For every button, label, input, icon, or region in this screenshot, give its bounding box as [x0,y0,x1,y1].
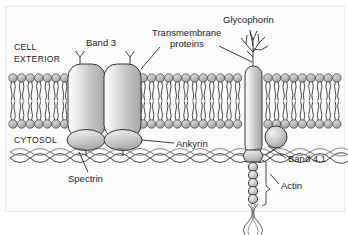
leader-transmembrane-to-band3 [141,47,160,69]
band-3-glycan-left [76,51,85,64]
label-band-3: Band 3 [86,37,116,48]
band-3-subunit-left [68,64,105,138]
label-band-4-1: Band 4.1 [288,153,326,164]
label-cytosol: CYTOSOL [14,135,57,145]
label-actin: Actin [281,180,302,191]
actin-bracket [262,160,270,206]
bilayer-outer-leaflet-right [264,74,341,101]
glycophorin-body [245,66,262,154]
ankyrin-right [104,130,142,151]
band-3-subunit-right [104,64,141,138]
leader-ankyrin [142,140,174,143]
label-spectrin: Spectrin [68,173,103,184]
leader-actin [270,174,279,184]
label-transmembrane-line2: proteins [170,38,204,49]
bilayer-outer-leaflet-middle [139,74,242,101]
leader-transmembrane-to-glycophorin [219,46,252,62]
diagram-canvas: CELL EXTERIOR CYTOSOL Band 3 Transmembra… [0,0,348,235]
label-ankyrin: Ankyrin [176,138,208,149]
bilayer-inner-leaflet-right [264,102,341,129]
ankyrin-left [67,130,105,151]
label-glycophorin: Glycophorin [223,14,274,25]
ankyrin-complex [67,130,142,151]
label-transmembrane-line1: Transmembrane [152,27,221,38]
lipid-bilayer [9,74,341,128]
actin-bead [248,194,257,203]
actin-braided-tail [244,204,263,235]
glycophorin-protein [241,31,268,154]
label-cell-exterior-line1: CELL [14,42,37,52]
actin-junction-node [243,150,263,162]
glycophorin-glycan-tree [241,31,268,66]
band-4-1-protein [265,126,287,148]
label-cell-exterior-line2: EXTERIOR [14,54,60,64]
bilayer-outer-leaflet-left [9,74,69,101]
band-3-glycan-right [126,51,135,64]
membrane-diagram-figure: CELL EXTERIOR CYTOSOL Band 3 Transmembra… [0,0,348,235]
actin-filament [243,150,270,235]
band-3-protein [68,51,141,138]
bilayer-inner-leaflet-middle [139,102,242,129]
bilayer-inner-leaflet-left [9,102,69,129]
